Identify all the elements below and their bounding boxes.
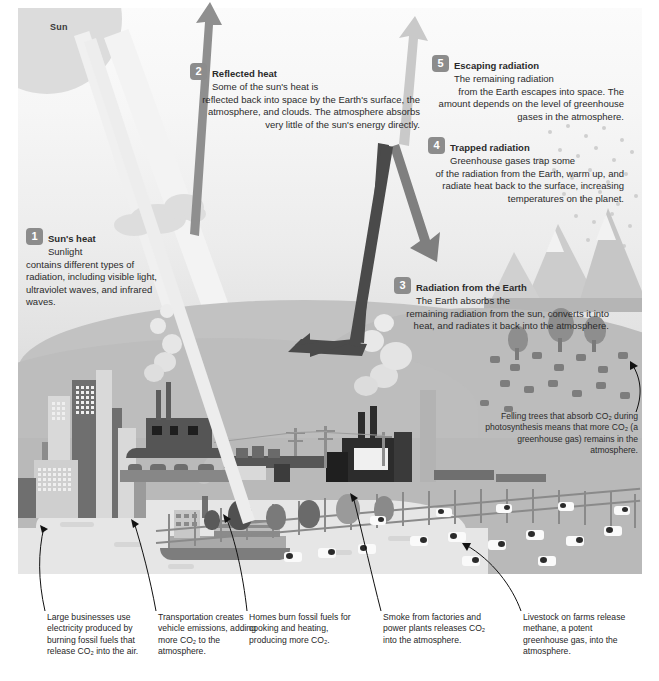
- caption-factories: Smoke from factories and power plants re…: [383, 612, 495, 646]
- callout-3-heading: Radiation from the Earth: [416, 282, 527, 293]
- caption-livestock: Livestock on farms release methane, a po…: [523, 612, 635, 658]
- callout-3-badge: 3: [394, 277, 411, 294]
- wave-2: [114, 542, 142, 547]
- callout-5-lead: The remaining radiation: [454, 73, 624, 86]
- caption-homes: Homes burn fossil fuels for cooking and …: [249, 612, 361, 646]
- callout-2-badge: 2: [190, 63, 207, 80]
- callout-1-body: contains different types of radiation, i…: [26, 259, 158, 309]
- callout-5-badge: 5: [432, 55, 449, 72]
- callout-1-heading: Sun's heat: [48, 233, 96, 244]
- callout-2: 2Reflected heat Some of the sun's heat i…: [190, 63, 420, 131]
- callout-1-badge: 1: [26, 228, 43, 245]
- callout-1: 1Sun's heat Sunlight contains different …: [26, 228, 158, 309]
- callout-3: 3Radiation from the Earth The Earth abso…: [394, 277, 609, 333]
- callout-3-body: remaining radiation from the sun, conver…: [394, 308, 609, 333]
- callout-2-body: reflected back into space by the Earth's…: [190, 94, 420, 132]
- callout-3-lead: The Earth absorbs the: [416, 295, 609, 308]
- sun-label: Sun: [50, 22, 68, 32]
- wave-5: [168, 564, 194, 569]
- callout-5-body: from the Earth escapes into space. The a…: [432, 86, 624, 124]
- caption-business: Large businesses use electricity produce…: [47, 612, 159, 658]
- note-felling-trees: Felling trees that absorb CO₂ during pho…: [478, 411, 638, 457]
- cloud-4: [184, 206, 206, 222]
- callout-4: 4Trapped radiation Greenhouse gases trap…: [428, 137, 624, 205]
- infographic-page: Sun: [0, 0, 659, 681]
- callout-5: 5Escaping radiation The remaining radiat…: [432, 55, 624, 123]
- wave-1: [60, 522, 94, 527]
- callout-1-lead: Sunlight: [48, 246, 158, 259]
- callout-4-lead: Greenhouse gases trap some: [450, 155, 624, 168]
- callout-2-heading: Reflected heat: [212, 68, 277, 79]
- callout-4-badge: 4: [428, 137, 445, 154]
- callout-2-lead: Some of the sun's heat is: [212, 81, 420, 94]
- callout-4-body: of the radiation from the Earth, warm up…: [428, 168, 624, 206]
- callout-5-heading: Escaping radiation: [454, 60, 539, 71]
- callout-4-heading: Trapped radiation: [450, 142, 530, 153]
